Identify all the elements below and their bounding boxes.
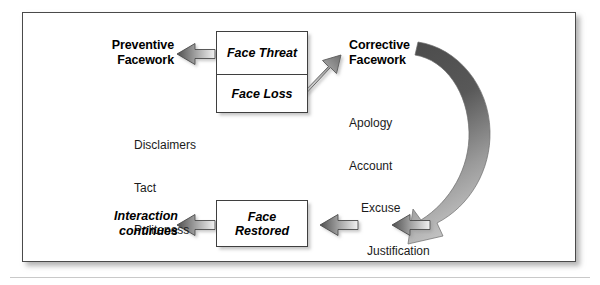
face-threat-loss-box: Face Threat Face Loss [216, 31, 308, 113]
list-item: Tact [134, 181, 230, 195]
preventive-facework-heading: Preventive Facework [78, 38, 174, 68]
face-restored-box: Face Restored [216, 200, 308, 247]
diagram-canvas: Preventive Facework Disclaimers Tact Pol… [0, 0, 600, 285]
face-restored-label: Face Restored [235, 210, 289, 238]
list-item: Apology [349, 116, 467, 130]
bottom-rule [10, 277, 590, 278]
interaction-continues-label: Interaction continues [96, 209, 178, 239]
corrective-facework-heading: Corrective Facework [349, 38, 469, 68]
list-item: Excuse [349, 201, 467, 215]
face-threat-label: Face Threat [227, 46, 297, 60]
face-loss-label: Face Loss [231, 87, 292, 101]
face-threat-cell: Face Threat [217, 32, 307, 75]
list-item: Disclaimers [134, 138, 230, 152]
face-loss-cell: Face Loss [217, 75, 307, 112]
list-item: Justification [349, 244, 467, 258]
corrective-facework-list: Apology Account Excuse Justification Rem… [349, 88, 467, 285]
list-item: Account [349, 159, 467, 173]
